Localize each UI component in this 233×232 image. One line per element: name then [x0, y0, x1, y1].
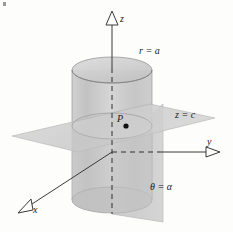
axis-label-x: x — [32, 204, 38, 215]
point-marker-dot — [123, 123, 128, 128]
cylindrical-coordinates-diagram: z y x r = a z = c θ = α P — [0, 0, 233, 232]
x-axis-arrowhead — [18, 199, 33, 213]
scan-speck-topleft — [3, 2, 6, 6]
figure-canvas: z y x r = a z = c θ = α P — [0, 0, 233, 232]
point-label-P: P — [116, 113, 123, 124]
axis-label-z: z — [119, 13, 124, 24]
axis-label-y: y — [206, 136, 212, 147]
z-axis-arrowhead — [106, 11, 118, 25]
label-r-equals-a: r = a — [139, 45, 160, 56]
label-z-equals-c: z = c — [174, 109, 196, 120]
y-axis-arrowhead — [206, 147, 220, 157]
label-theta-equals-alpha: θ = α — [150, 181, 173, 192]
